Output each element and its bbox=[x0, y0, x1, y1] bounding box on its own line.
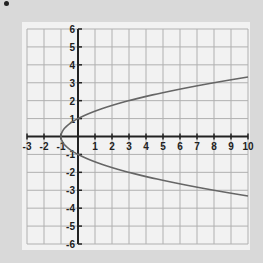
y-tick-label: -5 bbox=[66, 221, 75, 232]
y-tick-label: -4 bbox=[66, 203, 75, 214]
x-tick-label: -2 bbox=[40, 141, 49, 152]
y-tick-label: -6 bbox=[66, 239, 75, 250]
parabola-chart: -3-2-112345678910654321-1-2-3-4-5-6 bbox=[0, 0, 263, 263]
y-tick-label: -1 bbox=[66, 149, 75, 160]
x-tick-label: -3 bbox=[23, 141, 32, 152]
x-tick-label: -1 bbox=[57, 141, 66, 152]
x-tick-label: 4 bbox=[143, 141, 149, 152]
y-tick-label: -3 bbox=[66, 185, 75, 196]
x-tick-label: 6 bbox=[177, 141, 183, 152]
x-tick-label: 1 bbox=[92, 141, 98, 152]
x-tick-label: 8 bbox=[211, 141, 217, 152]
x-tick-label: 7 bbox=[194, 141, 200, 152]
y-tick-label: 3 bbox=[69, 78, 75, 89]
y-tick-label: 4 bbox=[69, 60, 75, 71]
y-tick-label: 5 bbox=[69, 42, 75, 53]
y-tick-label: 6 bbox=[69, 24, 75, 35]
x-tick-label: 2 bbox=[109, 141, 115, 152]
y-tick-label: -2 bbox=[66, 167, 75, 178]
y-tick-label: 2 bbox=[69, 96, 75, 107]
x-tick-label: 9 bbox=[228, 141, 234, 152]
x-tick-label: 3 bbox=[126, 141, 132, 152]
x-tick-label: 5 bbox=[160, 141, 166, 152]
x-tick-label: 10 bbox=[242, 141, 254, 152]
